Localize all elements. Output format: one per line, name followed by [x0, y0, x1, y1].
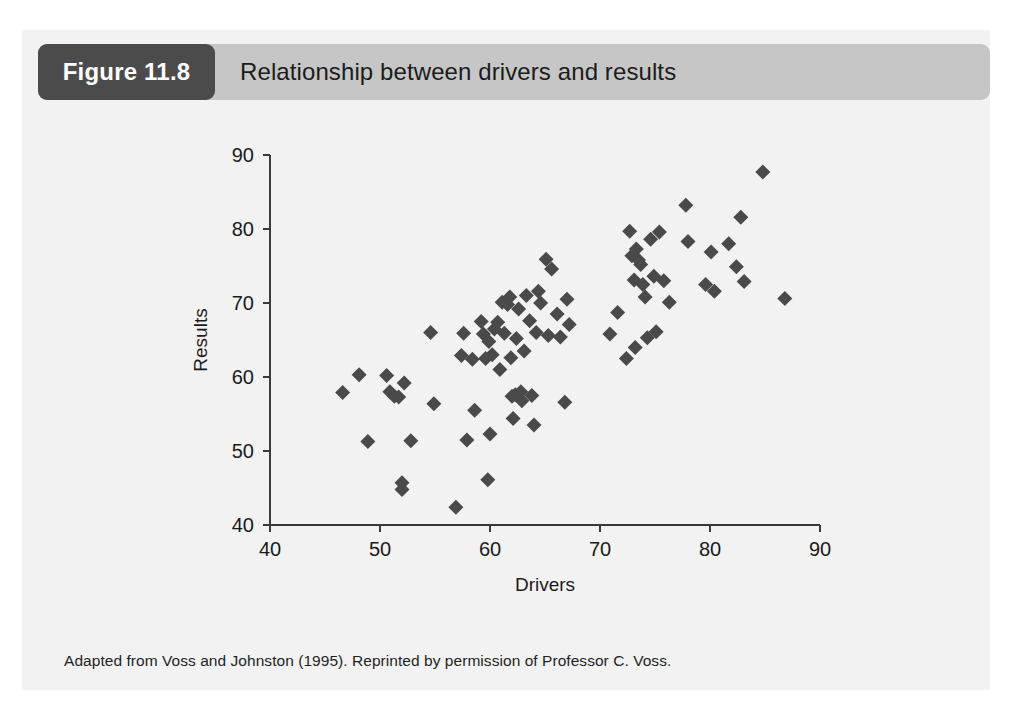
data-point [474, 314, 489, 329]
x-tick-label: 80 [699, 538, 721, 560]
data-point [550, 307, 565, 322]
data-point [560, 292, 575, 307]
data-point [610, 305, 625, 320]
x-tick-label: 90 [809, 538, 831, 560]
data-point [483, 426, 498, 441]
data-point [533, 296, 548, 311]
data-point [448, 500, 463, 515]
data-point [335, 385, 350, 400]
data-point [733, 210, 748, 225]
data-point [755, 165, 770, 180]
data-point [562, 317, 577, 332]
data-point [459, 432, 474, 447]
x-tick-label: 60 [479, 538, 501, 560]
data-point [721, 236, 736, 251]
data-point [777, 291, 792, 306]
data-point [379, 368, 394, 383]
data-point [729, 259, 744, 274]
figure-panel: Figure 11.8 Relationship between drivers… [22, 30, 990, 690]
data-point [480, 472, 495, 487]
data-point [360, 434, 375, 449]
data-point [527, 418, 542, 433]
data-point [704, 244, 719, 259]
data-point [619, 351, 634, 366]
y-tick-label: 70 [232, 292, 254, 314]
x-tick-label: 50 [369, 538, 391, 560]
scatter-plot: 405060708090 405060708090 Drivers Result… [22, 30, 990, 630]
data-point [517, 344, 532, 359]
data-point [553, 330, 568, 345]
data-point [492, 362, 507, 377]
data-point [622, 224, 637, 239]
y-tick-label: 90 [232, 144, 254, 166]
data-point-markers [335, 165, 792, 515]
figure-caption: Adapted from Voss and Johnston (1995). R… [64, 652, 671, 670]
axis-lines [263, 155, 820, 532]
y-tick-label: 50 [232, 440, 254, 462]
data-point [557, 395, 572, 410]
data-point [426, 396, 441, 411]
data-point [662, 295, 677, 310]
x-axis-title: Drivers [515, 574, 575, 595]
data-point [602, 327, 617, 342]
x-tick-label: 70 [589, 538, 611, 560]
y-tick-label: 60 [232, 366, 254, 388]
data-point [737, 274, 752, 289]
data-point [467, 403, 482, 418]
y-tick-label: 40 [232, 514, 254, 536]
data-point [638, 290, 653, 305]
data-point [522, 313, 537, 328]
y-axis-tick-labels: 405060708090 [232, 144, 254, 536]
scatter-plot-svg: 405060708090 405060708090 Drivers Result… [22, 30, 990, 630]
data-point [506, 411, 521, 426]
page-running-text [330, 0, 890, 7]
data-point [531, 284, 546, 299]
data-point [519, 288, 534, 303]
data-point [529, 325, 544, 340]
x-tick-label: 40 [259, 538, 281, 560]
data-point [541, 328, 556, 343]
data-point [352, 367, 367, 382]
x-axis-tick-labels: 405060708090 [259, 538, 831, 560]
y-tick-label: 80 [232, 218, 254, 240]
data-point [628, 340, 643, 355]
data-point [678, 198, 693, 213]
axes-group [263, 155, 820, 532]
data-point [681, 234, 696, 249]
data-point [403, 433, 418, 448]
data-point [423, 325, 438, 340]
data-point [397, 375, 412, 390]
data-point [456, 326, 471, 341]
y-axis-title: Results [190, 308, 211, 371]
data-point [503, 350, 518, 365]
